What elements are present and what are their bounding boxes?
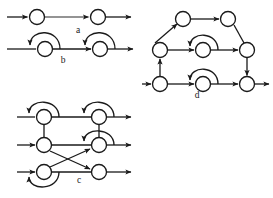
state-node-c4[interactable]	[92, 138, 107, 153]
state-node-d3[interactable]	[153, 43, 168, 58]
state-node-d8[interactable]	[240, 77, 255, 92]
state-node-d4[interactable]	[196, 43, 211, 58]
state-node-d1[interactable]	[176, 12, 191, 27]
panel-label-d: d	[195, 90, 200, 100]
state-node-a1[interactable]	[30, 10, 45, 25]
panel-label-b: b	[61, 55, 66, 65]
state-node-d2[interactable]	[221, 12, 236, 27]
panel-label-c: c	[77, 175, 81, 185]
state-diagram-figure: a b	[0, 0, 273, 198]
panel-label-a: a	[76, 25, 81, 35]
state-node-c3[interactable]	[37, 138, 52, 153]
panel-d: d	[142, 12, 269, 101]
panel-b: b	[7, 33, 133, 65]
state-node-c2[interactable]	[92, 110, 107, 125]
edge-c3-c6	[50, 151, 90, 169]
state-node-a2[interactable]	[91, 10, 106, 25]
panel-c: c	[17, 102, 131, 187]
state-node-c5[interactable]	[37, 165, 52, 180]
state-node-b2[interactable]	[93, 42, 108, 57]
edge-d2-d5	[234, 25, 244, 43]
state-node-d6[interactable]	[153, 77, 168, 92]
state-node-b1[interactable]	[38, 42, 53, 57]
edge-d3-d1	[155, 24, 177, 43]
figure-canvas: a b	[0, 0, 273, 198]
edge-c5-c4	[50, 149, 90, 167]
state-node-c6[interactable]	[92, 165, 107, 180]
state-node-c1[interactable]	[37, 110, 52, 125]
state-node-d5[interactable]	[240, 43, 255, 58]
panel-a: a	[7, 10, 131, 36]
